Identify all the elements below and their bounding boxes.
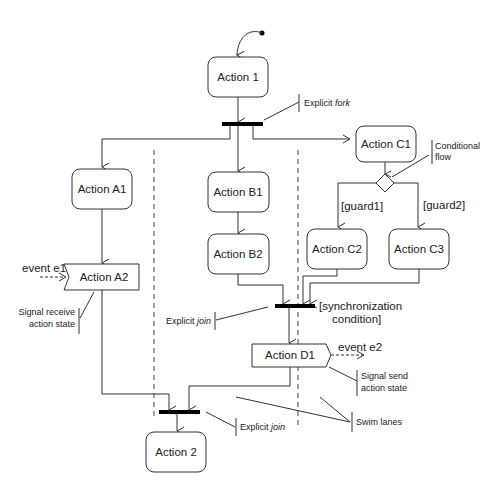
action-a1-label: Action A1 — [78, 183, 127, 195]
action-2-label: Action 2 — [155, 446, 197, 458]
action-2-node[interactable]: Action 2 — [146, 432, 206, 472]
svg-text:Explicit join: Explicit join — [166, 316, 211, 326]
svg-text:Swim lanes: Swim lanes — [356, 417, 403, 427]
explicit-join-annotation-bottom: Explicit join — [206, 412, 285, 436]
sync-condition-label-2: condition] — [332, 313, 381, 325]
action-b2-label: Action B2 — [213, 248, 262, 260]
action-b1-label: Action B1 — [213, 186, 262, 198]
action-c1-node[interactable]: Action C1 — [356, 126, 416, 162]
initial-node — [237, 31, 265, 56]
join-bar-bottom — [159, 410, 200, 414]
activity-diagram: Action 1 Explicit fork Action A1 Action … — [0, 0, 499, 495]
decision-node — [376, 174, 394, 192]
svg-text:Conditional: Conditional — [435, 141, 480, 151]
event-e2: event e2 — [331, 341, 382, 355]
action-a2-label: Action A2 — [80, 271, 129, 283]
guard2-label: [guard2] — [423, 199, 465, 211]
action-c1-label: Action C1 — [361, 138, 411, 150]
svg-text:action state: action state — [361, 383, 407, 393]
action-c2-label: Action C2 — [312, 243, 362, 255]
action-c3-node[interactable]: Action C3 — [389, 229, 449, 269]
svg-text:Explicit fork: Explicit fork — [304, 98, 351, 108]
signal-receive-annotation: Signal receive action state — [18, 292, 94, 334]
explicit-join-annotation-middle: Explicit join — [166, 307, 268, 330]
action-1-node[interactable]: Action 1 — [208, 57, 268, 97]
svg-text:action state: action state — [29, 319, 75, 329]
action-c2-node[interactable]: Action C2 — [307, 229, 367, 269]
fork-bar — [222, 122, 263, 126]
action-c3-label: Action C3 — [394, 243, 444, 255]
sync-condition-label-1: [synchronization — [319, 300, 402, 312]
svg-text:Explicit join: Explicit join — [240, 422, 285, 432]
action-1-label: Action 1 — [217, 71, 259, 83]
action-d1-label: Action D1 — [265, 349, 315, 361]
action-d1-node[interactable]: Action D1 — [252, 344, 331, 367]
guard1-label: [guard1] — [341, 200, 383, 212]
action-b1-node[interactable]: Action B1 — [208, 172, 269, 212]
event-e1: event e1 — [22, 262, 66, 277]
action-b2-node[interactable]: Action B2 — [208, 234, 269, 274]
signal-send-annotation: Signal send action state — [329, 367, 408, 396]
action-a1-node[interactable]: Action A1 — [72, 169, 132, 209]
svg-text:flow: flow — [435, 152, 452, 162]
explicit-fork-annotation: Explicit fork — [264, 94, 351, 120]
event-e1-label: event e1 — [22, 262, 66, 274]
action-a2-node[interactable]: Action A2 — [64, 264, 139, 290]
join-bar-middle — [275, 304, 315, 308]
event-e2-label: event e2 — [338, 341, 382, 353]
svg-text:Signal receive: Signal receive — [18, 307, 75, 317]
svg-text:Signal send: Signal send — [361, 371, 408, 381]
